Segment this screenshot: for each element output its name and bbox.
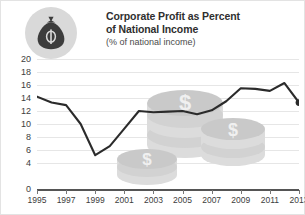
y-axis-tick-label: 12 [21,107,31,116]
y-axis-tick-label: 14 [21,94,31,103]
y-axis-tick-label: 16 [21,81,31,90]
x-axis-tick-label: 2013 [286,195,305,205]
x-axis-tick-label: 2005 [170,195,196,205]
x-axis-tick-label: 2001 [111,195,137,205]
x-axis-tickmark [270,190,271,194]
y-axis-tick-label: 18 [21,68,31,77]
x-axis-tickmark [66,190,67,194]
y-axis-tick-label: 10 [21,120,31,129]
x-axis-tickmark [124,190,125,194]
x-axis-tick-label: 2007 [199,195,225,205]
x-axis-tickmark [212,190,213,194]
x-axis-tickmark [299,190,300,194]
y-axis-tick-label: 6 [26,146,31,155]
y-axis-tick-label: 4 [26,159,31,168]
title-block: Corporate Profit as Percent of National … [106,10,301,48]
chart-title-line-2: of National Income [106,23,198,35]
x-axis-tick-label: 2009 [228,195,254,205]
page-title: Corporate Profit as Percent of National … [106,10,301,35]
y-axis-tick-label: 0 [26,185,31,194]
plot-canvas: $ $ $ [37,59,299,189]
x-axis-tick-label: 1997 [53,195,79,205]
x-axis-tickmark [183,190,184,194]
y-axis-tick-label: 20 [21,55,31,64]
chart-subtitle: (% of national income) [106,36,301,48]
data-series-line [37,59,299,189]
x-axis-tickmark [241,190,242,194]
x-axis-tickmark [153,190,154,194]
x-axis-tick-label: 1995 [24,195,50,205]
x-axis-tickmark [37,190,38,194]
money-bag-glyph [36,16,66,50]
chart-title-line-1: Corporate Profit as Percent [106,10,240,22]
x-axis-tick-label: 1999 [82,195,108,205]
x-axis-tick-label: 2011 [257,195,283,205]
x-axis-labels: 1995199719992001200320052007200920112013 [37,195,299,209]
money-bag-icon [25,7,77,59]
plot-area: 2018161412108640 $ [1,59,305,215]
x-axis-tick-label: 2003 [140,195,166,205]
chart-header: Corporate Profit as Percent of National … [1,1,305,59]
chart-card: Corporate Profit as Percent of National … [0,0,305,215]
y-axis-labels: 2018161412108640 [1,59,35,195]
x-axis-tickmark [95,190,96,194]
y-axis-tick-label: 8 [26,133,31,142]
x-axis-line [37,189,299,191]
